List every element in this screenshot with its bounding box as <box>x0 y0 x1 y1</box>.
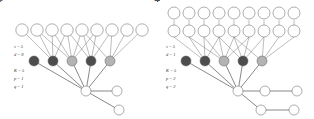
top-node: Ni,1 <box>0 0 58 36</box>
param-K: K = 5 <box>165 68 177 73</box>
param-d: d = 1 <box>166 52 176 57</box>
param-p: p = 2 <box>165 76 176 81</box>
param-s: s = 5 <box>166 44 176 49</box>
param-q: q = 1 <box>14 84 24 89</box>
top-node-row2: Ni,2 <box>155 0 180 19</box>
param-p: p = 1 <box>13 76 24 81</box>
two-panel-network-diagram: Ni,1 Ni,1 Ni,1 Ni,1 Ni,1 Ni,1 <box>0 0 314 119</box>
param-d: d = 0 <box>14 52 24 57</box>
edge-group-left <box>22 30 142 110</box>
branch-node: Qi <box>0 0 124 115</box>
param-K: K = 5 <box>13 68 25 73</box>
top-node: Ni,1 <box>0 0 88 36</box>
param-q: q = 2 <box>166 84 176 89</box>
top-node-row2: Ni,2 <box>155 0 240 19</box>
top-node-row2: Ni,2 <box>155 0 210 19</box>
param-s: s = 5 <box>14 44 24 49</box>
diagram-panel-left: Ni,1 Ni,1 Ni,1 Ni,1 Ni,1 Ni,1 <box>0 0 157 119</box>
diagram-panel-right: Ni,2 Ni,2 Ni,2 Ni,2 Ni,2 Ni,2 <box>157 0 314 119</box>
top-node-row1: Ni,1 <box>155 0 240 37</box>
top-node: Ni,1 <box>0 0 28 36</box>
svg-text:Qi: Qi <box>156 0 159 2</box>
